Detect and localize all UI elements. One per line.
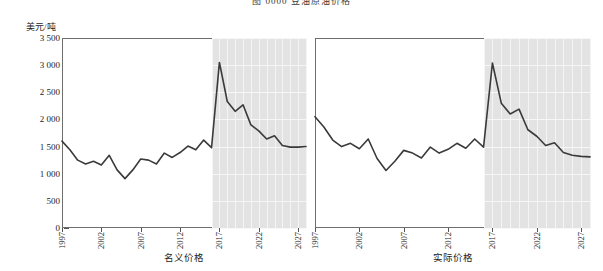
x-tick-label: 1997 <box>310 232 320 249</box>
x-tick-label: 2012 <box>175 232 185 249</box>
x-tick-label: 2027 <box>293 232 303 249</box>
y-tick-label: 2 500 <box>14 87 60 97</box>
y-axis-tick-labels: 05001 0001 5002 0002 5003 0003 500 <box>14 0 60 271</box>
forecast-gridline-vertical <box>306 38 307 228</box>
price-line-real <box>315 38 590 228</box>
x-tick-label: 2012 <box>443 232 453 249</box>
x-tick-label: 2027 <box>576 232 586 249</box>
x-tick-label: 2007 <box>399 232 409 249</box>
x-tick-label: 2017 <box>214 232 224 249</box>
x-tick-label: 1997 <box>57 232 67 249</box>
data-line <box>315 63 590 170</box>
y-tick-label: 2 000 <box>14 114 60 124</box>
price-line-nominal <box>62 38 306 228</box>
x-tick-label: 2022 <box>254 232 264 249</box>
forecast-gridline-vertical <box>590 38 591 228</box>
panel-caption-real: 实际价格 <box>315 250 590 264</box>
y-tick-label: 500 <box>14 196 60 206</box>
x-tick-label: 2002 <box>96 232 106 249</box>
y-tick-label: 1 500 <box>14 142 60 152</box>
x-tick-label: 2007 <box>136 232 146 249</box>
y-tick-label: 3 500 <box>14 33 60 43</box>
panel-caption-nominal: 名义价格 <box>62 250 306 264</box>
x-tick-label: 2017 <box>487 232 497 249</box>
figure-title: 图 0000 豆油原油价格 <box>0 0 603 6</box>
y-tick-label: 0 <box>14 223 60 233</box>
data-line <box>62 62 306 178</box>
x-tick-label: 2002 <box>354 232 364 249</box>
x-tick-label: 2022 <box>532 232 542 249</box>
y-tick-label: 1 000 <box>14 169 60 179</box>
figure-container: 图 0000 豆油原油价格 美元/吨 05001 0001 5002 0002 … <box>0 0 603 271</box>
chart-panel-nominal <box>62 38 306 228</box>
y-tick-label: 3 000 <box>14 60 60 70</box>
chart-panel-real <box>315 38 590 228</box>
